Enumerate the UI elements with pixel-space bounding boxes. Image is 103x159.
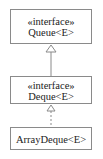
realization-arrow-icon <box>47 105 55 127</box>
inheritance-arrows <box>0 0 103 159</box>
generalization-arrow-icon <box>46 45 56 76</box>
